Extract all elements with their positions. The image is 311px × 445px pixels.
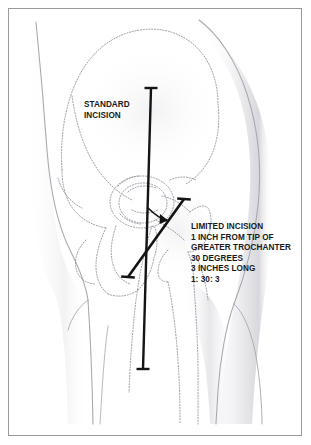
limited-incision-label-line-6: 1: 30: 3 xyxy=(191,275,291,286)
pubic-ramus-superior xyxy=(96,228,108,294)
standard-incision-label-line-1: STANDARD xyxy=(84,99,130,110)
limited-incision-label: LIMITED INCISION 1 INCH FROM TIP OF GREA… xyxy=(191,222,291,286)
inner-thigh-contour xyxy=(88,300,93,424)
acetabular-roof xyxy=(118,176,140,186)
limited-incision-label-line-3: GREATER TROCHANTER xyxy=(191,243,291,254)
pubic-ramus-inferior xyxy=(108,290,138,296)
standard-incision-label-line-2: INCISION xyxy=(84,110,130,121)
pubic-body-outline xyxy=(75,240,96,284)
limited-incision-label-line-2: 1 INCH FROM TIP OF xyxy=(191,233,291,244)
standard-incision-label: STANDARD INCISION xyxy=(84,99,130,121)
thigh-inner-fold xyxy=(100,326,108,424)
ilium-lateral-outline xyxy=(62,170,106,228)
figure-container: STANDARD INCISION LIMITED INCISION 1 INC… xyxy=(0,0,311,445)
limited-incision-label-line-4: 30 DEGREES xyxy=(191,254,291,265)
limited-incision-label-line-1: LIMITED INCISION xyxy=(191,222,291,233)
limited-incision-label-line-5: 3 INCHES LONG xyxy=(191,264,291,275)
obturator-foramen-outline xyxy=(111,226,130,284)
thigh-shading xyxy=(183,286,236,424)
femoral-shaft-medial xyxy=(168,282,180,424)
medial-shading xyxy=(28,38,88,424)
sacroiliac-edge xyxy=(170,177,196,180)
